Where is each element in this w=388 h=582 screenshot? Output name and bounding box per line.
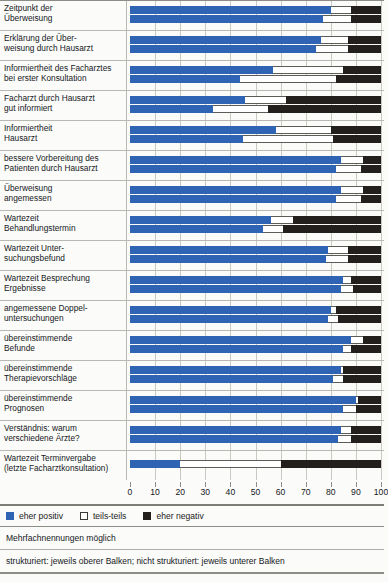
bar-segment-pos [130,246,328,254]
category-label-line: Überweisung [4,13,122,23]
axis-tick-label: 50 [251,487,261,497]
stacked-bar [130,186,381,194]
category-bars [126,451,384,480]
stacked-bar [130,135,381,143]
bar-segment-mid [326,255,349,263]
bar-segment-mid [343,345,351,353]
stacked-bar [130,165,381,173]
category-bars [126,31,384,60]
bar-segment-pos [130,216,271,224]
bar-segment-pos [130,405,343,413]
category-bars [126,271,384,300]
category-label-line: übereinstimmende [4,333,122,343]
category-bars [126,91,384,120]
bar-segment-mid [276,126,331,134]
note-multiple-answers: Mehrfachnennungen möglich [0,527,384,549]
stacked-bar [130,460,381,468]
category-bars [126,421,384,450]
bar-segment-neg [348,36,381,44]
category-label: Facharzt durch Hausarztgut informiert [0,91,126,120]
axis-tick-label: 40 [226,487,236,497]
stacked-bar [130,435,381,443]
bar-segment-pos [130,366,341,374]
bar-segment-pos [130,45,316,53]
chart-row: Informiertheit des Facharztesbei erster … [0,60,384,90]
category-label: übereinstimmendeBefunde [0,331,126,360]
bar-segment-pos [130,126,276,134]
category-bars [126,1,384,30]
category-bars [126,61,384,90]
bar-segment-pos [130,426,341,434]
stacked-bar [130,105,381,113]
category-label-line: angemessene Doppel- [4,303,122,313]
category-label: Zeitpunkt derÜberweisung [0,1,126,30]
bar-segment-mid [245,96,285,104]
category-label: Wartezeit Unter-suchungsbefund [0,241,126,270]
stacked-bar [130,96,381,104]
bar-segment-neg [343,366,381,374]
note-multiple-text: Mehrfachnennungen möglich [6,533,116,543]
category-label-line: Hausarzt [4,133,122,143]
bar-segment-mid [336,195,361,203]
category-label-line: Zeitpunkt der [4,3,122,13]
bar-segment-mid [271,216,294,224]
bar-segment-pos [130,6,331,14]
bar-segment-neg [293,216,381,224]
note-structure: strukturiert: jeweils oberer Balken; nic… [0,550,384,572]
category-label: Informiertheit des Facharztesbei erster … [0,61,126,90]
chart-row: Wartezeit Terminvergabe(letzte Facharztk… [0,450,384,480]
bar-segment-mid [328,246,348,254]
bar-segment-mid [343,405,356,413]
legend-item: eher positiv [6,511,63,521]
axis-tick-label: 60 [276,487,286,497]
category-label: bessere Vorbereitung desPatienten durch … [0,151,126,180]
bar-segment-mid [321,36,349,44]
bar-segment-neg [331,126,381,134]
chart-rows: Zeitpunkt derÜberweisungErklärung der Üb… [0,0,384,480]
bar-segment-mid [341,156,364,164]
category-label: Verständnis: warumverschiedene Ärzte? [0,421,126,450]
chart-row: Überweisungangemessen [0,180,384,210]
note-structure-text: strukturiert: jeweils oberer Balken; nic… [6,556,285,566]
bar-segment-neg [348,255,381,263]
stacked-bar [130,396,381,404]
chart-row: InformiertheitHausarzt [0,120,384,150]
stacked-bar [130,315,381,323]
stacked-bar [130,345,381,353]
bottom-rule [0,572,384,574]
bar-segment-neg [333,135,381,143]
stacked-bar [130,75,381,83]
bar-segment-mid [351,336,364,344]
bar-segment-pos [130,345,343,353]
stacked-bar [130,36,381,44]
bar-segment-pos [130,135,243,143]
stacked-bar [130,405,381,413]
category-label: Wartezeit Terminvergabe(letzte Facharztk… [0,451,126,480]
bar-segment-pos [130,105,213,113]
category-label: übereinstimmendePrognosen [0,391,126,420]
category-label-line: Patienten durch Hausarzt [4,163,122,173]
category-label: Erklärung der Über-weisung durch Hausarz… [0,31,126,60]
category-label: angemessene Doppel-untersuchungen [0,301,126,330]
stacked-bar [130,255,381,263]
category-label-line: Ergebnisse [4,283,122,293]
bar-segment-neg [361,195,381,203]
category-label-line: gut informiert [4,103,122,113]
bar-segment-mid [213,105,268,113]
bar-segment-neg [336,306,381,314]
bar-segment-mid [180,460,280,468]
bar-segment-pos [130,460,180,468]
category-label-line: Behandlungstermin [4,223,122,233]
category-label-line: Informiertheit des Facharztes [4,63,122,73]
bar-segment-pos [130,225,263,233]
chart-row: Wartezeit BesprechungErgebnisse [0,270,384,300]
bar-segment-neg [281,460,381,468]
bar-segment-pos [130,195,336,203]
stacked-bar [130,45,381,53]
legend-item: teils-teils [80,511,126,521]
bar-segment-pos [130,375,333,383]
bar-segment-mid [273,66,343,74]
category-label-line: suchungsbefund [4,253,122,263]
bar-segment-mid [331,6,351,14]
chart-row: Wartezeit Unter-suchungsbefund [0,240,384,270]
